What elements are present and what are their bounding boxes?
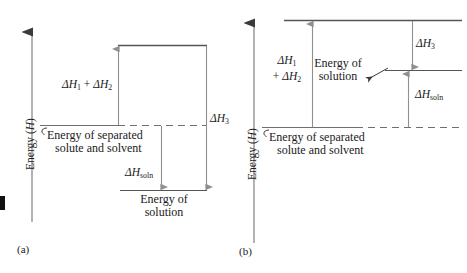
panel-a-delta-h12-label: ΔH1 + ΔH2 [62, 78, 112, 92]
panel-a-solution-label: Energy of solution [122, 193, 206, 219]
panel-b-separated-label: Energy of separated solute and solvent [269, 131, 365, 157]
panel-b-tag: (b) [239, 245, 252, 257]
panel-b-delta-h12-label: ΔH1 + ΔH2 [265, 54, 309, 85]
panel-a-delta-h3-label: ΔH3 [210, 112, 229, 126]
panel-a-separated-label: Energy of separated solute and solvent [47, 129, 143, 155]
panel-a-tag: (a) [17, 243, 29, 255]
panel-a-delta-hsoln-label: ΔHsoln [125, 166, 153, 180]
panel-b-axis-label: Energy (H) [246, 128, 258, 180]
panel-b-delta-hsoln-label: ΔHsoln [415, 88, 443, 102]
panel-b-solution-leader [371, 68, 388, 78]
page-edge-mark [0, 196, 5, 210]
panel-b-delta-h3-label: ΔH3 [416, 37, 435, 51]
panel-b-solution-label: Energy of solution [305, 57, 371, 83]
panel-a-axis-label: Energy (H) [24, 118, 36, 170]
